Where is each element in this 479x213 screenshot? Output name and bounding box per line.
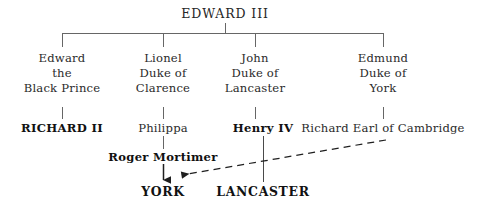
node-edmund-york: Edmund Duke of York bbox=[358, 51, 408, 96]
node-house-york: YORK bbox=[141, 184, 185, 200]
node-edward-black-prince: Edward the Black Prince bbox=[24, 51, 101, 96]
node-richard-ii: RICHARD II bbox=[21, 121, 103, 136]
node-henry-iv: Henry IV bbox=[233, 121, 293, 136]
node-lionel-clarence-line3: Clarence bbox=[136, 81, 190, 96]
node-richard-earl-of-cambridge: Richard Earl of Cambridge bbox=[301, 121, 464, 136]
node-edward-black-prince-line1: Edward bbox=[24, 51, 101, 66]
connector-lines bbox=[0, 0, 479, 213]
node-richard-earl-of-cambridge-label: Richard Earl of Cambridge bbox=[301, 121, 464, 135]
node-edward-black-prince-line2: the bbox=[24, 66, 101, 81]
node-henry-iv-label: Henry IV bbox=[233, 121, 293, 135]
node-edmund-york-line2: Duke of bbox=[358, 66, 408, 81]
node-edmund-york-line3: York bbox=[358, 81, 408, 96]
node-john-lancaster-line2: Duke of bbox=[225, 66, 285, 81]
family-tree-diagram: EDWARD III Edward the Black Prince Lione… bbox=[0, 0, 479, 213]
node-philippa-label: Philippa bbox=[138, 121, 188, 135]
node-roger-mortimer-label: Roger Mortimer bbox=[108, 150, 217, 164]
node-edward-black-prince-line3: Black Prince bbox=[24, 81, 101, 96]
node-lionel-clarence-line2: Duke of bbox=[136, 66, 190, 81]
node-john-lancaster: John Duke of Lancaster bbox=[225, 51, 285, 96]
node-lionel-clarence-line1: Lionel bbox=[136, 51, 190, 66]
node-john-lancaster-line3: Lancaster bbox=[225, 81, 285, 96]
node-lionel-clarence: Lionel Duke of Clarence bbox=[136, 51, 190, 96]
node-edmund-york-line1: Edmund bbox=[358, 51, 408, 66]
node-edward-iii-label: EDWARD III bbox=[181, 6, 269, 21]
node-house-york-label: YORK bbox=[141, 184, 185, 199]
node-john-lancaster-line1: John bbox=[225, 51, 285, 66]
node-house-lancaster: LANCASTER bbox=[216, 184, 309, 200]
node-philippa: Philippa bbox=[138, 121, 188, 136]
node-roger-mortimer: Roger Mortimer bbox=[108, 150, 217, 165]
node-house-lancaster-label: LANCASTER bbox=[216, 184, 309, 199]
node-richard-ii-label: RICHARD II bbox=[21, 121, 103, 135]
node-edward-iii: EDWARD III bbox=[181, 6, 269, 22]
